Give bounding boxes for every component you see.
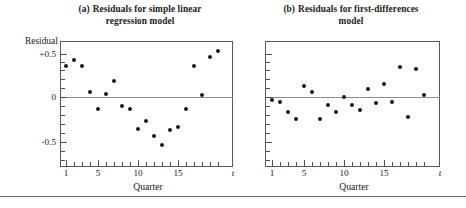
panel-a: (a)Residuals for simple linear regressio… — [0, 0, 240, 208]
panel-a-title-line2: regression model — [106, 16, 175, 26]
panel-b-ytick-minor — [266, 106, 270, 107]
panel-b-ytick-minor — [266, 88, 270, 89]
panel-a-ytick-minor — [61, 133, 65, 134]
panel-b-xtick-major — [272, 160, 273, 166]
panel-b-xtick-minor — [336, 162, 337, 166]
panel-a-zero-line — [61, 97, 233, 98]
panel-a-ytick-minor — [61, 88, 65, 89]
panel-a-xtick-minor — [90, 162, 91, 166]
panel-a-xtick-minor — [74, 162, 75, 166]
panel-a-xtick-major — [66, 160, 67, 166]
panel-b-xtick-minor — [368, 162, 369, 166]
panel-a-ytick-major — [61, 142, 67, 143]
panel-a-xtick-minor — [146, 162, 147, 166]
panel-a-plot-frame — [60, 41, 233, 167]
residual-plots-figure: (a)Residuals for simple linear regressio… — [0, 0, 466, 208]
panel-b-ytick-minor — [266, 62, 270, 63]
panel-a-xtick-minor — [210, 162, 211, 166]
data-point — [366, 87, 370, 91]
panel-a-xtick-minor — [186, 162, 187, 166]
data-point — [406, 115, 410, 119]
panel-b-zero-line — [266, 97, 440, 98]
data-point — [88, 90, 92, 94]
panel-b-xlabel-15: 15 — [374, 168, 394, 178]
panel-b-xtick-minor — [296, 162, 297, 166]
data-point — [342, 95, 346, 99]
panel-a-ytick-major — [61, 54, 67, 55]
panel-b-xlabel-10: 10 — [334, 168, 354, 178]
panel-b-ytick-minor — [266, 160, 270, 161]
data-point — [176, 125, 180, 129]
data-point — [96, 107, 100, 111]
panel-b-ytick-major — [266, 54, 272, 55]
panel-b-xtick-minor — [288, 162, 289, 166]
panel-a-title-line1: Residuals for simple linear — [93, 4, 202, 14]
panel-b-xlabel-5: 5 — [294, 168, 314, 178]
panel-a-ytick-minor — [61, 151, 65, 152]
data-point — [184, 107, 188, 111]
data-point — [120, 104, 124, 108]
panel-a-ytick-major — [61, 97, 67, 98]
panel-b-xtick-major — [344, 160, 345, 166]
panel-a-xtick-major — [138, 160, 139, 166]
panel-b-xtick-minor — [352, 162, 353, 166]
panel-b-xlabel-t: t — [430, 168, 450, 178]
data-point — [112, 79, 116, 83]
panel-b-ytick-minor — [266, 79, 270, 80]
panel-a-xtick-minor — [122, 162, 123, 166]
figure-bottom-divider — [0, 196, 466, 197]
panel-b-xtick-major — [304, 160, 305, 166]
panel-b-xtick-minor — [280, 162, 281, 166]
panel-a-ylabel-neg05: -0.5 — [12, 137, 56, 147]
panel-a-xlabel-10: 10 — [128, 168, 148, 178]
panel-b-xtick-minor — [408, 162, 409, 166]
panel-b-xtick-minor — [424, 162, 425, 166]
panel-b-xtick-minor — [312, 162, 313, 166]
panel-a-tag: (a) — [79, 4, 90, 14]
panel-b-x-axis-title: Quarter — [306, 181, 402, 192]
panel-a-xtick-minor — [170, 162, 171, 166]
panel-a-ytick-minor — [61, 79, 65, 80]
panel-a-ytick-minor — [61, 62, 65, 63]
panel-a-ytick-minor — [61, 124, 65, 125]
data-point — [136, 127, 140, 131]
panel-a-xlabel-5: 5 — [88, 168, 108, 178]
panel-a-xtick-minor — [82, 162, 83, 166]
panel-b-ytick-minor — [266, 70, 270, 71]
panel-b-xtick-minor — [392, 162, 393, 166]
panel-a-xtick-minor — [218, 162, 219, 166]
data-point — [310, 90, 314, 94]
panel-b-xtick-minor — [416, 162, 417, 166]
panel-a-ytick-minor — [61, 106, 65, 107]
panel-a-ylabel-zero: 0 — [12, 92, 56, 102]
panel-a-xtick-minor — [106, 162, 107, 166]
panel-a-x-axis-title: Quarter — [100, 181, 196, 192]
panel-a-y-axis-title: Residual — [25, 36, 58, 46]
panel-a-xtick-minor — [130, 162, 131, 166]
panel-b-ytick-minor — [266, 151, 270, 152]
panel-b: (b)Residuals for first-differences model — [236, 0, 466, 208]
panel-a-title: (a)Residuals for simple linear regressio… — [42, 4, 238, 27]
panel-a-xtick-minor — [194, 162, 195, 166]
panel-b-tag: (b) — [283, 4, 295, 14]
panel-a-ytick-minor — [61, 160, 65, 161]
panel-b-xtick-minor — [360, 162, 361, 166]
panel-a-xtick-major — [98, 160, 99, 166]
data-point — [294, 117, 298, 121]
panel-b-xtick-minor — [400, 162, 401, 166]
panel-b-title: (b)Residuals for first-differences model — [242, 4, 460, 27]
panel-a-xlabel-15: 15 — [168, 168, 188, 178]
data-point — [128, 107, 132, 111]
data-point — [318, 117, 322, 121]
panel-b-title-line2: model — [339, 16, 364, 26]
data-point — [358, 108, 362, 112]
panel-b-title-line1: Residuals for first-differences — [298, 4, 419, 14]
panel-a-xtick-minor — [114, 162, 115, 166]
data-point — [152, 134, 156, 138]
panel-b-xtick-minor — [376, 162, 377, 166]
panel-a-xtick-minor — [162, 162, 163, 166]
panel-b-ytick-minor — [266, 115, 270, 116]
panel-a-xtick-minor — [154, 162, 155, 166]
panel-b-ytick-major — [266, 142, 272, 143]
panel-a-xtick-major — [178, 160, 179, 166]
